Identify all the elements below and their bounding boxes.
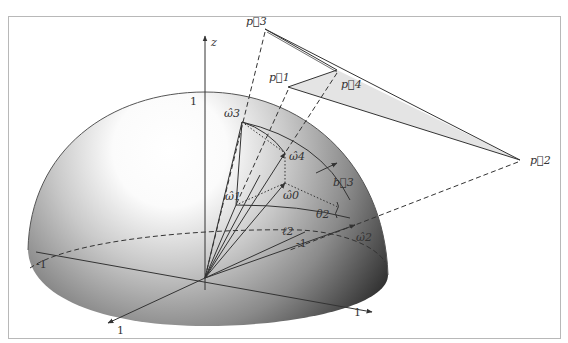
label-p2: p⃗2 [530, 154, 551, 167]
tick-front-right-1: 1 [354, 306, 361, 319]
label-p3: p⃗3 [246, 15, 267, 28]
label-w4: ω̂4 [289, 150, 305, 163]
label-w1: ω̂1 [225, 190, 241, 203]
proj-p2 [355, 162, 518, 225]
label-theta2: θ2 [316, 208, 330, 221]
label-p4: p⃗4 [341, 78, 362, 91]
hemisphere-diagram: z 1 -1 -1 1 1 p⃗3 p⃗1 p⃗4 p⃗2 ω̂3 ω̂4 ω̂… [0, 0, 568, 343]
label-b3: b⃗3 [333, 176, 354, 189]
label-w3: ω̂3 [224, 107, 240, 120]
label-ell2: ℓ2 [282, 225, 294, 238]
label-w2: ω̂2 [356, 231, 372, 244]
tick-front-left-1: 1 [117, 324, 124, 337]
tick-back-neg1: -1 [296, 237, 307, 250]
label-p1: p⃗1 [269, 71, 290, 84]
tick-x-neg1: -1 [36, 258, 47, 271]
tick-z-1: 1 [190, 95, 197, 108]
hemisphere [28, 92, 388, 326]
label-w0: ω̂0 [283, 189, 299, 202]
polygon-edge-double [267, 32, 337, 72]
z-axis-label: z [210, 36, 217, 49]
